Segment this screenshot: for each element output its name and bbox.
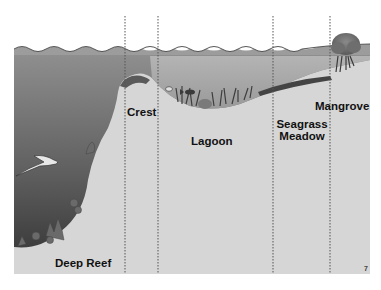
lagoon-rock-icon — [198, 99, 212, 109]
reef-zonation-diagram: Deep Reef Crest Lagoon Seagrass Meadow M… — [0, 0, 381, 290]
zone-label-mangrove: Mangrove — [315, 100, 369, 112]
zone-label-seagrass-line1: Seagrass — [274, 118, 330, 130]
zone-label-lagoon: Lagoon — [191, 135, 233, 147]
zone-label-crest: Crest — [127, 106, 156, 118]
page-corner-mark: 7 — [364, 265, 368, 272]
zone-label-seagrass-line2: Meadow — [274, 130, 330, 142]
zone-label-deep-reef: Deep Reef — [55, 257, 111, 269]
zone-label-seagrass-meadow: Seagrass Meadow — [274, 118, 330, 142]
shell-icon — [166, 87, 173, 92]
